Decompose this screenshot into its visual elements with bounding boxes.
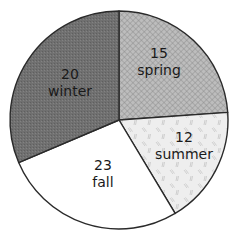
slice-label-fall: 23 fall bbox=[63, 157, 143, 191]
spring-name: spring bbox=[119, 62, 199, 79]
winter-value: 20 bbox=[30, 66, 110, 83]
fall-name: fall bbox=[63, 174, 143, 191]
pie-chart bbox=[0, 0, 236, 245]
summer-name: summer bbox=[144, 146, 224, 163]
summer-value: 12 bbox=[144, 129, 224, 146]
slice-label-spring: 15 spring bbox=[119, 45, 199, 79]
winter-name: winter bbox=[30, 83, 110, 100]
slice-label-winter: 20 winter bbox=[30, 66, 110, 100]
fall-value: 23 bbox=[63, 157, 143, 174]
pie-slices bbox=[10, 11, 228, 229]
spring-value: 15 bbox=[119, 45, 199, 62]
slice-label-summer: 12 summer bbox=[144, 129, 224, 163]
